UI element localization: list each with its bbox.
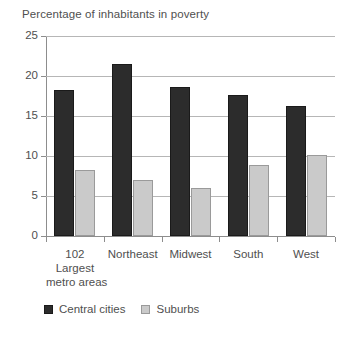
x-tick-2 bbox=[162, 237, 163, 242]
x-tick-0 bbox=[46, 237, 47, 242]
gridline-0 bbox=[46, 236, 335, 237]
x-tick-end bbox=[335, 237, 336, 242]
x-axis-label-3: South bbox=[219, 247, 277, 261]
x-axis-label-0: 102Largestmetro areas bbox=[46, 247, 104, 289]
y-axis-label-15: 15 bbox=[8, 110, 38, 122]
x-axis-label-1-line-0: Northeast bbox=[104, 247, 162, 261]
bar-central-cities-1 bbox=[112, 64, 132, 236]
dark-square-icon bbox=[44, 305, 53, 314]
x-axis-label-2-line-0: Midwest bbox=[162, 247, 220, 261]
legend-item-central-cities: Central cities bbox=[44, 303, 125, 315]
bar-suburbs-4 bbox=[307, 155, 327, 236]
bar-suburbs-0 bbox=[75, 170, 95, 236]
bar-central-cities-4 bbox=[286, 106, 306, 236]
x-axis-label-4: West bbox=[277, 247, 335, 261]
x-axis-label-0-line-2: metro areas bbox=[46, 275, 104, 289]
bar-suburbs-3 bbox=[249, 165, 269, 236]
x-axis-label-3-line-0: South bbox=[219, 247, 277, 261]
x-axis-label-2: Midwest bbox=[162, 247, 220, 261]
y-axis-label-5: 5 bbox=[8, 190, 38, 202]
chart-title: Percentage of inhabitants in poverty bbox=[22, 8, 209, 20]
x-axis-label-1: Northeast bbox=[104, 247, 162, 261]
y-axis-label-20: 20 bbox=[8, 70, 38, 82]
x-tick-1 bbox=[104, 237, 105, 242]
bar-central-cities-3 bbox=[228, 95, 248, 236]
legend-item-suburbs: Suburbs bbox=[141, 303, 199, 315]
bar-suburbs-2 bbox=[191, 188, 211, 236]
x-axis-label-4-line-0: West bbox=[277, 247, 335, 261]
y-axis-label-0: 0 bbox=[8, 230, 38, 242]
bar-central-cities-2 bbox=[170, 87, 190, 236]
x-axis-label-0-line-1: Largest bbox=[46, 261, 104, 275]
x-axis-label-0-line-0: 102 bbox=[46, 247, 104, 261]
plot-area bbox=[46, 36, 335, 236]
bar-central-cities-0 bbox=[54, 90, 74, 236]
poverty-bar-chart: Percentage of inhabitants in poverty 051… bbox=[0, 0, 349, 338]
bar-suburbs-1 bbox=[133, 180, 153, 236]
light-square-icon bbox=[141, 305, 150, 314]
y-axis-label-25: 25 bbox=[8, 30, 38, 42]
legend-label: Suburbs bbox=[156, 303, 199, 315]
legend-label: Central cities bbox=[59, 303, 125, 315]
y-axis-label-10: 10 bbox=[8, 150, 38, 162]
chart-legend: Central citiesSuburbs bbox=[44, 303, 199, 315]
x-tick-3 bbox=[219, 237, 220, 242]
x-tick-4 bbox=[277, 237, 278, 242]
